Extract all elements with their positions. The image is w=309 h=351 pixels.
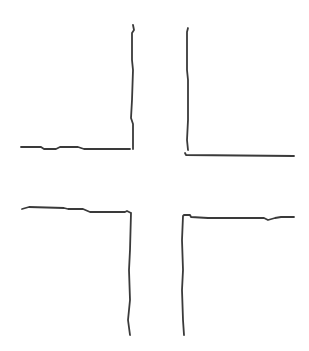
diagram-svg — [0, 0, 309, 351]
corner-bottom-right — [182, 215, 294, 335]
intersection-diagram — [0, 0, 309, 351]
corner-top-right — [185, 28, 294, 156]
corner-top-left — [21, 25, 134, 149]
corner-bottom-left — [22, 207, 131, 335]
